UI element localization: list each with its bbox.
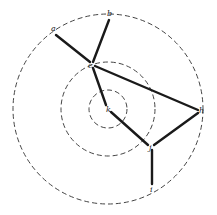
node-label-k: k [106, 105, 111, 114]
node-label-c: c [88, 61, 93, 70]
node-label-b: b [107, 9, 112, 18]
edge-h-j [154, 113, 198, 145]
edge-c-k [93, 68, 106, 105]
edge-a-c [56, 35, 90, 62]
concentric-network-diagram: abckhji [0, 0, 217, 215]
node-label-h: h [199, 106, 204, 115]
graph-edges [56, 20, 198, 184]
edge-b-c [93, 20, 109, 62]
edge-c-h [95, 66, 198, 110]
node-label-i: i [150, 185, 153, 194]
node-labels: abckhji [51, 9, 204, 194]
node-label-a: a [51, 24, 56, 33]
edge-k-j [111, 112, 148, 145]
